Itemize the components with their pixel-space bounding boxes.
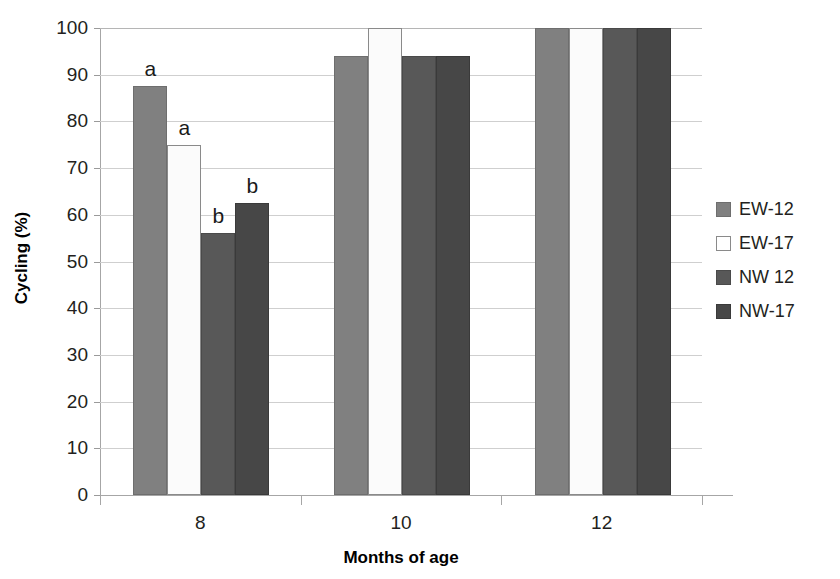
bar-nw-12-12mo [603, 28, 637, 495]
y-axis-tick-label: 30 [42, 345, 88, 364]
bar-nw-17-12mo [637, 28, 671, 495]
legend-swatch-icon [716, 270, 731, 285]
bar-ew-17-12mo [569, 28, 603, 495]
y-axis-tick-label: 0 [42, 485, 88, 504]
x-axis-title: Months of age [100, 548, 702, 568]
bar-annotation-letter: b [232, 175, 272, 196]
plot-area [100, 28, 702, 495]
y-axis-tick-label: 70 [42, 158, 88, 177]
bar-ew-12-10mo [334, 56, 368, 495]
bar-annotation-letter: a [130, 58, 170, 79]
bar-ew-17-8mo [167, 145, 201, 495]
bar-annotation-letter: a [164, 117, 204, 138]
bar-nw-17-8mo [235, 203, 269, 495]
legend-label: EW-12 [739, 200, 794, 218]
legend-swatch-icon [716, 202, 731, 217]
legend-item-nw-12[interactable]: NW 12 [716, 260, 834, 294]
y-axis-tick-label: 40 [42, 298, 88, 317]
x-axis-tick-mark [100, 496, 101, 505]
legend-label: NW-17 [739, 302, 795, 320]
y-axis-tick-label: 100 [42, 18, 88, 37]
bar-ew-17-10mo [368, 28, 402, 495]
y-axis-tick-label: 80 [42, 111, 88, 130]
bar-chart-figure: Cycling (%) 0102030405060708090100 81012… [0, 0, 840, 579]
legend-label: NW 12 [739, 268, 794, 286]
x-axis-category-label: 12 [542, 512, 662, 534]
bar-ew-12-12mo [535, 28, 569, 495]
y-axis-tick-label: 10 [42, 438, 88, 457]
bar-nw-12-10mo [402, 56, 436, 495]
legend: EW-12EW-17NW 12NW-17 [716, 192, 834, 328]
y-axis-title: Cycling (%) [12, 158, 32, 358]
x-axis-category-label: 8 [140, 512, 260, 534]
legend-item-ew-12[interactable]: EW-12 [716, 192, 834, 226]
x-axis-category-label: 10 [341, 512, 461, 534]
legend-item-ew-17[interactable]: EW-17 [716, 226, 834, 260]
bar-ew-12-8mo [133, 86, 167, 495]
legend-label: EW-17 [739, 234, 794, 252]
legend-item-nw-17[interactable]: NW-17 [716, 294, 834, 328]
y-axis-tick-label: 60 [42, 205, 88, 224]
legend-swatch-icon [716, 236, 731, 251]
bar-nw-17-10mo [436, 56, 470, 495]
x-axis-tick-mark [702, 496, 703, 505]
y-axis-tick-label: 90 [42, 65, 88, 84]
y-axis-tick-label: 20 [42, 392, 88, 411]
x-axis-line [100, 495, 733, 496]
x-axis-tick-mark [501, 496, 502, 505]
bar-annotation-letter: b [198, 205, 238, 226]
bar-nw-12-8mo [201, 233, 235, 495]
x-axis-tick-mark [301, 496, 302, 505]
y-axis-tick-label: 50 [42, 252, 88, 271]
legend-swatch-icon [716, 304, 731, 319]
